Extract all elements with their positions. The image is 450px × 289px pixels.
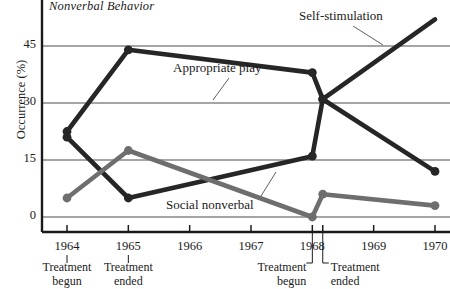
x-tick-label-1970: 1970 [407, 239, 450, 254]
annotation-line-1: Treatment [331, 260, 380, 274]
chart-container: Nonverbal Behavior Occurrence (%) 45 30 … [0, 0, 450, 289]
x-tick-label-1969: 1969 [346, 239, 402, 254]
annotation-treatment-begun-1968: Treatment begun [206, 261, 306, 288]
series-label-appropriate-play: Appropriate play [173, 60, 261, 76]
y-tick-label-0: 0 [2, 208, 36, 223]
x-tick-label-1968: 1968 [284, 239, 340, 254]
annotation-line-2: ended [114, 274, 143, 288]
annotation-treatment-ended-1968: Treatment ended [331, 261, 431, 288]
x-tick-label-1965: 1965 [100, 239, 156, 254]
annotation-line-1: Treatment [257, 260, 306, 274]
annotation-line-1: Treatment [104, 260, 153, 274]
annotation-line-2: begun [52, 274, 81, 288]
x-tick-label-1964: 1964 [39, 239, 95, 254]
x-tick-label-1966: 1966 [162, 239, 218, 254]
y-tick-label-15: 15 [2, 151, 36, 166]
series-label-self-stimulation: Self-stimulation [299, 8, 383, 24]
series-lines-group [67, 19, 435, 217]
annotation-treatment-ended-1965: Treatment ended [80, 261, 176, 288]
chart-title: Nonverbal Behavior [49, 0, 154, 14]
y-tick-label-45: 45 [2, 37, 36, 52]
annotation-line-2: begun [277, 274, 306, 288]
annotation-line-2: ended [331, 274, 360, 288]
y-tick-label-30: 30 [2, 94, 36, 109]
label-leader-lines-group [213, 26, 383, 196]
x-tick-label-1967: 1967 [223, 239, 279, 254]
series-label-social-nonverbal: Social nonverbal [166, 197, 254, 213]
